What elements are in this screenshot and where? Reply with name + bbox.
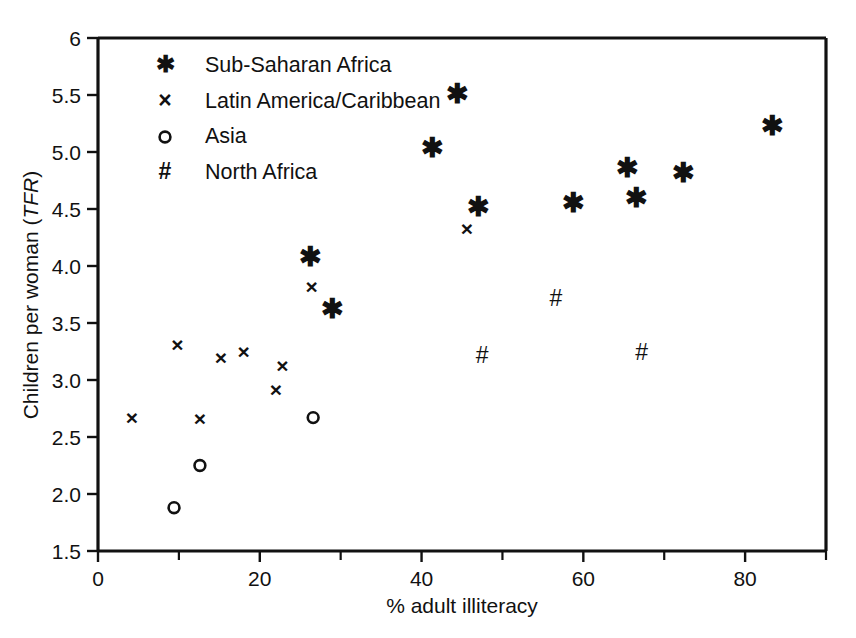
data-point-asterisk: ✱ (421, 133, 444, 163)
legend-marker-icon: ✱ (156, 51, 175, 77)
legend-marker-icon: # (159, 158, 172, 184)
data-point-asterisk: ✱ (616, 153, 639, 183)
y-tick-label: 2.0 (52, 483, 81, 506)
y-tick-label: 2.5 (52, 426, 81, 449)
data-point-asterisk: ✱ (672, 158, 695, 188)
y-axis-title-italic: TFR (19, 178, 42, 219)
scatter-plot-figure: 1.52.02.53.03.54.04.55.05.56 020406080 %… (0, 0, 856, 638)
legend-entry-label: Sub-Saharan Africa (205, 53, 391, 77)
data-point-x: × (171, 333, 183, 356)
y-tick-label: 5.0 (52, 141, 81, 164)
data-point-asterisk: ✱ (321, 294, 344, 324)
data-point-x: × (237, 340, 249, 363)
y-tick-label: 3.5 (52, 312, 81, 335)
data-point-asterisk: ✱ (562, 188, 585, 218)
y-tick-label: 1.5 (52, 540, 81, 563)
x-tick-label: 0 (92, 567, 104, 590)
data-point-x: × (126, 406, 138, 429)
plot-canvas: 1.52.02.53.03.54.04.55.05.56 020406080 %… (0, 0, 856, 638)
y-axis-title-tail: ) (19, 171, 42, 178)
data-point-x: × (270, 378, 282, 401)
data-point-hash: # (476, 342, 489, 368)
y-axis-title: Children per woman (TFR) (19, 171, 42, 420)
y-tick-label: 6 (69, 27, 81, 50)
data-point-asterisk: ✱ (761, 111, 784, 141)
y-tick-label: 3.0 (52, 369, 81, 392)
data-point-asterisk: ✱ (299, 242, 322, 272)
legend-marker-icon: × (158, 87, 171, 113)
x-tick-label: 80 (733, 567, 756, 590)
legend-entry-label: Latin America/Caribbean (205, 89, 440, 113)
y-axis-title-plain: Children per woman ( (19, 219, 42, 420)
data-point-hash: # (549, 285, 562, 311)
data-point-asterisk: ✱ (625, 183, 648, 213)
data-point-asterisk: ✱ (446, 79, 469, 109)
data-point-x: × (461, 217, 473, 240)
data-point-hash: # (635, 339, 648, 365)
data-point-x: × (305, 275, 317, 298)
data-point-x: × (276, 354, 288, 377)
y-tick-label: 4.0 (52, 255, 81, 278)
x-tick-label: 60 (572, 567, 595, 590)
x-axis-title: % adult illiteracy (386, 594, 538, 617)
x-tick-label: 40 (410, 567, 433, 590)
y-tick-label: 5.5 (52, 84, 81, 107)
data-point-x: × (194, 407, 206, 430)
data-point-x: × (215, 346, 227, 369)
x-tick-label: 20 (248, 567, 271, 590)
legend-entry-label: Asia (205, 124, 247, 148)
legend-entry-label: North Africa (205, 160, 317, 184)
y-tick-label: 4.5 (52, 198, 81, 221)
